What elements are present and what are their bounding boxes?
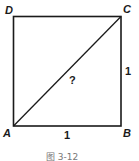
diagonal-label: ? bbox=[69, 74, 76, 86]
square-diagram: D C A B 1 1 ? 图 3-12 bbox=[0, 0, 139, 161]
side-label-bc: 1 bbox=[125, 65, 131, 77]
vertex-label-b: B bbox=[123, 127, 131, 139]
figure-caption: 图 3-12 bbox=[46, 152, 78, 161]
vertex-label-d: D bbox=[5, 4, 13, 16]
diagonal-ac bbox=[14, 17, 122, 127]
vertex-label-c: C bbox=[123, 3, 132, 15]
side-label-ab: 1 bbox=[64, 129, 70, 141]
vertex-label-a: A bbox=[2, 127, 11, 139]
